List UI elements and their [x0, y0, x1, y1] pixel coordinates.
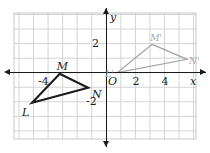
y-axis-label: y	[110, 12, 116, 23]
x-axis-label: x	[190, 76, 196, 87]
vertex-label-L: L	[22, 107, 29, 118]
vertex-label-L-prime: L'	[105, 70, 113, 79]
vertex-label-M: M	[57, 61, 68, 72]
y-tick--2: -2	[86, 96, 97, 107]
vertex-label-M-prime: M'	[150, 34, 162, 43]
x-tick-4: 4	[162, 76, 169, 87]
x-tick--4: -4	[38, 76, 49, 87]
vertex-label-N-prime: N'	[189, 57, 199, 66]
x-tick-2: 2	[132, 76, 139, 87]
x-axis-arrow-left	[4, 69, 10, 75]
y-tick-2: 2	[92, 38, 99, 49]
y-axis-arrow-up	[103, 8, 109, 14]
geometry-figure: x y O LMNL'M'N'-4242-2	[0, 0, 210, 153]
x-axis-arrow-right	[200, 69, 206, 75]
y-axis-arrow-down	[103, 141, 109, 147]
